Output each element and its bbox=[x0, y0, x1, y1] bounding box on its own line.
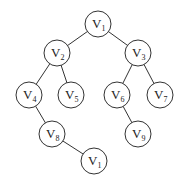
tree-node-n8: V8 bbox=[39, 121, 65, 147]
binary-tree-diagram: V1V2V3V4V5V6V7V8V9V1 bbox=[0, 0, 185, 189]
tree-node-n7: V7 bbox=[147, 82, 173, 108]
tree-node-n2: V2 bbox=[44, 40, 70, 66]
tree-nodes: V1V2V3V4V5V6V7V8V9V1 bbox=[16, 11, 173, 174]
tree-node-n10: V1 bbox=[81, 148, 107, 174]
tree-node-n4: V4 bbox=[16, 82, 42, 108]
tree-node-n3: V3 bbox=[125, 40, 151, 66]
tree-node-n6: V6 bbox=[104, 82, 130, 108]
tree-node-n1: V1 bbox=[85, 11, 111, 37]
tree-node-n9: V9 bbox=[125, 121, 151, 147]
tree-node-n5: V5 bbox=[58, 82, 84, 108]
